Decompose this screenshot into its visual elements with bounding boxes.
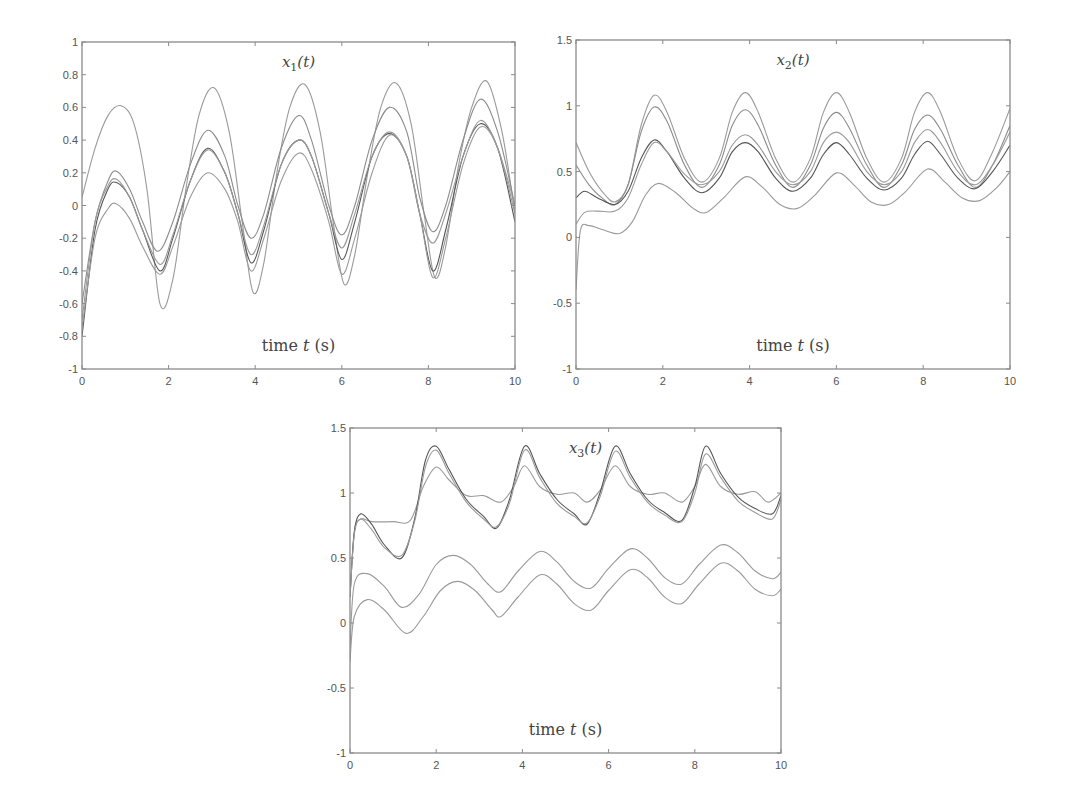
- x-tick-label: 10: [775, 759, 787, 771]
- plot-title: x1(t): [282, 53, 315, 74]
- series-line-1: [82, 81, 515, 309]
- series-line-1: [350, 464, 781, 597]
- y-tick-label: -0.5: [553, 297, 572, 309]
- y-tick-label: -0.2: [59, 232, 78, 244]
- y-tick-label: 1: [72, 36, 78, 48]
- y-tick-label: 0.4: [63, 134, 78, 146]
- y-tick-label: -1: [562, 363, 572, 375]
- y-tick-label: 1: [566, 100, 572, 112]
- axes-frame: [350, 428, 781, 753]
- x-tick-label: 10: [1004, 375, 1016, 387]
- axes-frame: [82, 42, 515, 369]
- figure: 0246810-1-0.8-0.6-0.4-0.200.20.40.60.81x…: [0, 0, 1068, 806]
- x-tick-label: 0: [573, 375, 579, 387]
- series-group: [576, 93, 1010, 290]
- y-tick-label: 0: [566, 231, 572, 243]
- x-tick-label: 2: [166, 375, 172, 387]
- y-tick-label: 1: [340, 487, 346, 499]
- x-axis-label: time t (s): [529, 720, 603, 739]
- y-tick-label: 1.5: [331, 422, 346, 434]
- series-line-4: [576, 130, 1010, 225]
- series-line-4: [350, 545, 781, 649]
- y-tick-label: 0.5: [557, 166, 572, 178]
- series-line-2: [576, 107, 1010, 205]
- plot-x3: 0246810-1-0.500.511.5x3(t)time t (s): [327, 422, 787, 771]
- x-tick-label: 2: [660, 375, 666, 387]
- plot-x1: 0246810-1-0.8-0.6-0.4-0.200.20.40.60.81x…: [59, 36, 521, 387]
- x-tick-label: 6: [833, 375, 839, 387]
- x-tick-label: 4: [747, 375, 753, 387]
- y-tick-label: -0.4: [59, 265, 78, 277]
- x-tick-label: 6: [339, 375, 345, 387]
- x-tick-label: 2: [433, 759, 439, 771]
- x-tick-label: 6: [606, 759, 612, 771]
- series-line-1: [576, 93, 1010, 202]
- x-tick-label: 10: [509, 375, 521, 387]
- x-axis-label: time t (s): [262, 336, 336, 355]
- x-tick-label: 4: [252, 375, 258, 387]
- y-tick-label: -0.5: [327, 682, 346, 694]
- series-line-5: [82, 127, 515, 329]
- series-line-3: [82, 124, 515, 337]
- x-tick-label: 4: [519, 759, 525, 771]
- y-tick-label: 0: [72, 200, 78, 212]
- x-axis-label: time t (s): [756, 336, 830, 355]
- x-tick-label: 8: [920, 375, 926, 387]
- plot-title: x3(t): [569, 439, 602, 460]
- y-tick-label: 0.6: [63, 101, 78, 113]
- x-tick-label: 8: [692, 759, 698, 771]
- x-tick-label: 8: [425, 375, 431, 387]
- series-group: [350, 446, 781, 662]
- y-tick-label: 0.5: [331, 552, 346, 564]
- plot-x2: 0246810-1-0.500.511.5x2(t)time t (s): [553, 34, 1016, 387]
- y-tick-label: -1: [336, 747, 346, 759]
- x-tick-label: 0: [347, 759, 353, 771]
- y-tick-label: -0.8: [59, 330, 78, 342]
- y-tick-label: -0.6: [59, 298, 78, 310]
- y-tick-label: 0.8: [63, 69, 78, 81]
- y-tick-label: -1: [68, 363, 78, 375]
- series-group: [82, 81, 515, 337]
- y-tick-label: 0.2: [63, 167, 78, 179]
- y-tick-label: 0: [340, 617, 346, 629]
- series-line-3: [350, 450, 781, 597]
- figure-canvas: 0246810-1-0.8-0.6-0.4-0.200.20.40.60.81x…: [0, 0, 1068, 806]
- x-tick-label: 0: [79, 375, 85, 387]
- y-tick-label: 1.5: [557, 34, 572, 46]
- plot-title: x2(t): [776, 51, 809, 72]
- series-line-5: [350, 563, 781, 662]
